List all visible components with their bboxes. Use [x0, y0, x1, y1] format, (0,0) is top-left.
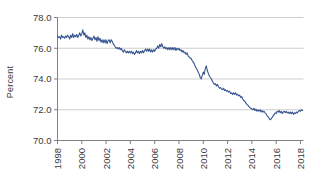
- x-tick-label: 2004: [125, 148, 136, 169]
- x-tick-label: 2006: [149, 148, 160, 169]
- x-tick-label: 2018: [295, 148, 306, 169]
- y-tick-label: 78.0: [33, 12, 52, 23]
- x-tick-label: 2008: [174, 148, 185, 169]
- y-tick-label: 72.0: [33, 104, 52, 115]
- chart-container: Percent 70.072.074.076.078.0 19982000200…: [0, 0, 317, 183]
- y-axis-ticks-group: 70.072.074.076.078.0: [33, 12, 58, 146]
- y-tick-label: 70.0: [33, 135, 52, 146]
- x-tick-label: 2000: [76, 148, 87, 169]
- x-tick-label: 2014: [246, 148, 257, 169]
- x-tick-label: 2010: [198, 148, 209, 169]
- data-series-line: [58, 30, 303, 120]
- line-chart-plot: 70.072.074.076.078.0 1998200020022004200…: [0, 0, 317, 183]
- gridlines-group: [58, 18, 304, 110]
- x-tick-label: 2012: [222, 148, 233, 169]
- x-tick-label: 2016: [271, 148, 282, 169]
- y-tick-label: 74.0: [33, 73, 52, 84]
- x-axis-ticks-group: 1998200020022004200620082010201220142016…: [52, 141, 306, 170]
- x-tick-label: 2002: [101, 148, 112, 169]
- y-tick-label: 76.0: [33, 43, 52, 54]
- x-tick-label: 1998: [52, 148, 63, 169]
